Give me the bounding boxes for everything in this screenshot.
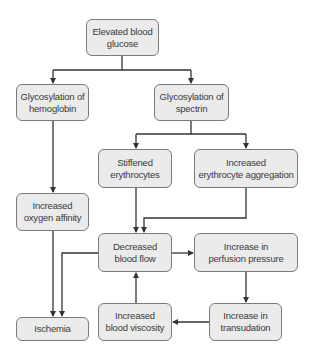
- node-label: Glycosylation of hemoglobin: [21, 91, 85, 115]
- node-increase-transudation: Increase in transudation: [209, 303, 282, 341]
- node-perfusion-pressure: Increase in perfusion pressure: [194, 233, 298, 272]
- node-label: Increase in transudation: [221, 310, 271, 334]
- node-label: Ischemia: [34, 323, 70, 335]
- node-label: Decreased blood flow: [113, 241, 157, 265]
- node-elevated-blood-glucose: Elevated blood glucose: [86, 19, 159, 56]
- node-label: Glycosylation of spectrin: [160, 91, 224, 115]
- node-label: Increase in perfusion pressure: [208, 241, 283, 265]
- node-label: Increased oxygen affinity: [24, 200, 82, 224]
- node-ischemia: Ischemia: [16, 317, 89, 341]
- node-glycosylation-hemoglobin: Glycosylation of hemoglobin: [16, 84, 89, 121]
- flowchart: Elevated blood glucose Glycosylation of …: [0, 0, 314, 355]
- node-increased-oxygen-affinity: Increased oxygen affinity: [16, 193, 89, 231]
- node-label: Increased blood viscosity: [106, 310, 165, 334]
- node-label: Stiffened erythrocytes: [110, 157, 159, 181]
- node-label: Elevated blood glucose: [92, 26, 152, 50]
- node-decreased-blood-flow: Decreased blood flow: [98, 233, 172, 272]
- node-glycosylation-spectrin: Glycosylation of spectrin: [154, 84, 229, 121]
- node-stiffened-erythrocytes: Stiffened erythrocytes: [98, 149, 172, 188]
- node-increased-blood-viscosity: Increased blood viscosity: [98, 303, 172, 341]
- node-erythrocyte-aggregation: Increased erythrocyte aggregation: [194, 149, 298, 188]
- node-label: Increased erythrocyte aggregation: [198, 157, 293, 181]
